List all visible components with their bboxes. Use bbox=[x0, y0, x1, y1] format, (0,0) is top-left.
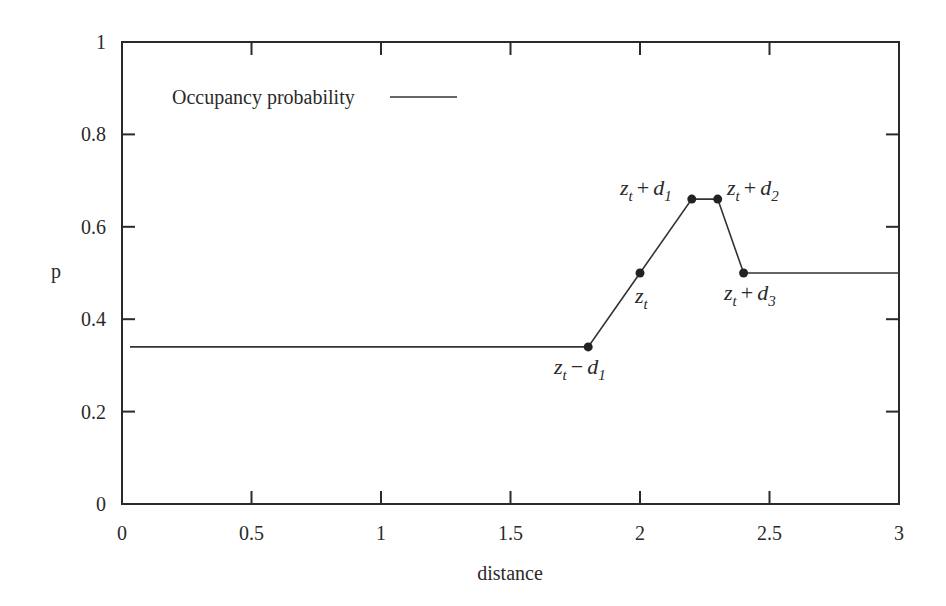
data-point-marker bbox=[636, 269, 645, 278]
data-point-markers bbox=[584, 195, 748, 352]
x-tick-label: 1 bbox=[376, 522, 386, 544]
y-tick-label: 0.8 bbox=[81, 123, 106, 145]
legend: Occupancy probability bbox=[172, 86, 457, 109]
y-tick-label: 0.2 bbox=[81, 401, 106, 423]
x-tick-label: 3 bbox=[894, 522, 904, 544]
series-line-occupancy-probability bbox=[130, 199, 899, 347]
x-tick-label: 2.5 bbox=[757, 522, 782, 544]
annotation-zt-minus-d1: zt−d1 bbox=[553, 354, 606, 383]
y-tick-label: 0 bbox=[96, 493, 106, 515]
data-point-marker bbox=[584, 342, 593, 351]
x-tick-label: 0 bbox=[117, 522, 127, 544]
annotation-zt-plus-d3: zt+d3 bbox=[723, 280, 776, 309]
legend-label: Occupancy probability bbox=[172, 86, 355, 109]
annotation-zt-plus-d1: zt+d1 bbox=[619, 175, 672, 204]
line-chart: 00.511.522.53 00.20.40.60.81 distance p … bbox=[0, 0, 946, 606]
x-ticks: 00.511.522.53 bbox=[117, 42, 904, 544]
x-tick-label: 0.5 bbox=[239, 522, 264, 544]
y-tick-label: 0.4 bbox=[81, 308, 106, 330]
x-axis-title: distance bbox=[477, 562, 543, 584]
y-tick-label: 1 bbox=[96, 31, 106, 53]
data-point-marker bbox=[739, 269, 748, 278]
x-tick-label: 2 bbox=[635, 522, 645, 544]
data-point-marker bbox=[687, 195, 696, 204]
x-tick-label: 1.5 bbox=[498, 522, 523, 544]
y-axis-title: p bbox=[51, 260, 61, 283]
annotation-zt-plus-d2: zt+d2 bbox=[726, 175, 779, 204]
y-tick-label: 0.6 bbox=[81, 216, 106, 238]
data-point-marker bbox=[713, 195, 722, 204]
annotation-zt: zt bbox=[634, 283, 649, 312]
